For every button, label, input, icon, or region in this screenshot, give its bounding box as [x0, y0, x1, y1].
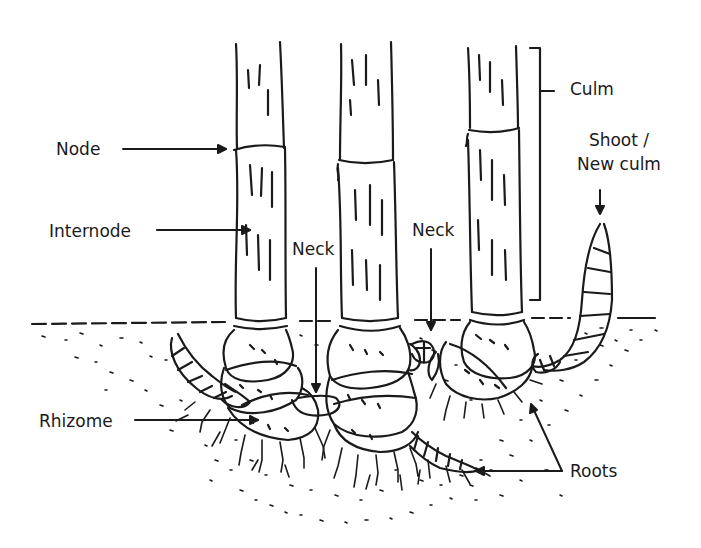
right-culm	[466, 46, 524, 325]
label-internode: Internode	[49, 221, 131, 241]
culm-bracket	[530, 48, 554, 300]
middle-culm	[337, 42, 400, 331]
new-shoot	[532, 224, 612, 373]
label-shoot: Shoot / New culm	[566, 130, 672, 174]
left-small-shoot	[171, 334, 250, 407]
label-shoot-line1: Shoot /	[566, 130, 672, 150]
label-neck-left: Neck	[292, 239, 334, 259]
label-rhizome: Rhizome	[39, 411, 113, 431]
left-rhizome-base	[221, 330, 339, 440]
label-node: Node	[56, 139, 100, 159]
label-arrows	[123, 145, 604, 475]
middle-roots	[322, 430, 490, 490]
right-rhizome-base	[429, 322, 535, 399]
middle-rhizome-tip	[410, 432, 478, 472]
label-shoot-line2: New culm	[566, 154, 672, 174]
label-neck-right: Neck	[412, 220, 454, 240]
bamboo-rhizome-diagram: Node Internode Neck Neck Culm Shoot / Ne…	[0, 0, 701, 548]
label-roots: Roots	[570, 461, 617, 481]
label-culm: Culm	[570, 79, 614, 99]
left-culm	[234, 42, 287, 329]
middle-rhizome-base	[327, 328, 420, 452]
